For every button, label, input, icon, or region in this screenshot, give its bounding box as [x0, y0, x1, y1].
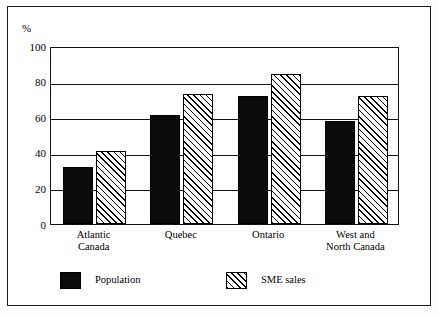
y-tick-label-20: 20	[35, 184, 46, 195]
y-tick-label-60: 60	[35, 113, 46, 124]
plot-area	[50, 47, 399, 225]
x-axis-label-west-and-north-canada: West andNorth Canada	[312, 229, 399, 253]
y-tick-label-80: 80	[35, 77, 46, 88]
bar-population-west-and-north-canada	[325, 121, 355, 224]
y-tick-label-100: 100	[30, 42, 47, 53]
bar-population-ontario	[238, 96, 268, 224]
y-axis-tick-labels: 020406080100	[0, 0, 46, 315]
hatched-swatch	[226, 272, 247, 289]
legend-label: Population	[95, 274, 141, 286]
bar-population-quebec	[150, 115, 180, 224]
x-label-line-1: Ontario	[252, 229, 284, 240]
y-tick-label-0: 0	[41, 220, 47, 231]
y-tick-label-40: 40	[35, 148, 46, 159]
x-label-line-1: Quebec	[165, 229, 197, 240]
x-axis-label-atlantic-canada: AtlanticCanada	[50, 229, 137, 253]
legend-item-sme-sales[interactable]: SME sales	[226, 270, 306, 290]
bar-sme-sales-quebec	[183, 94, 213, 224]
gridline-80	[51, 84, 398, 85]
bar-sme-sales-ontario	[271, 74, 301, 224]
legend-item-population[interactable]: Population	[60, 270, 141, 290]
bar-sme-sales-west-and-north-canada	[358, 96, 388, 224]
x-axis-category-labels: AtlanticCanadaQuebecOntarioWest andNorth…	[50, 229, 399, 263]
x-label-line-2: North Canada	[312, 241, 399, 253]
solid-black-swatch	[60, 272, 81, 289]
x-axis-label-quebec: Quebec	[137, 229, 224, 241]
bar-population-atlantic-canada	[63, 167, 93, 224]
legend-label: SME sales	[261, 274, 306, 286]
x-label-line-1: West and	[336, 229, 375, 240]
bar-sme-sales-atlantic-canada	[96, 151, 126, 224]
x-axis-label-ontario: Ontario	[225, 229, 312, 241]
x-label-line-1: Atlantic	[77, 229, 111, 240]
x-label-line-2: Canada	[50, 241, 137, 253]
chart-legend: PopulationSME sales	[50, 270, 399, 296]
chart-figure: % 020406080100 AtlanticCanadaQuebecOntar…	[0, 0, 439, 315]
